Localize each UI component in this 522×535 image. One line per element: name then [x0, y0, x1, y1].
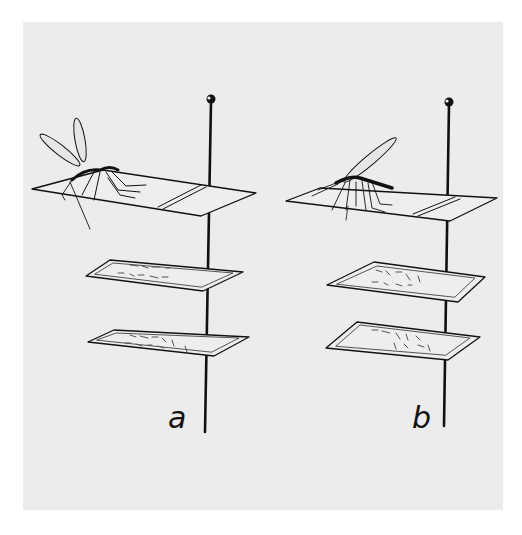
pin-b [444, 98, 454, 427]
specimen-a: a [32, 95, 256, 436]
mount-card-a [32, 170, 256, 216]
specimen-b: b [286, 98, 497, 436]
data-label-a2 [88, 330, 249, 356]
pin-a [205, 95, 216, 433]
panel-label-a: a [168, 400, 186, 435]
figure-drawing: a b [0, 0, 522, 535]
data-label-b2 [326, 322, 480, 360]
data-label-a1 [86, 260, 243, 291]
data-label-b1 [327, 262, 485, 302]
panel-label-b: b [412, 400, 431, 435]
